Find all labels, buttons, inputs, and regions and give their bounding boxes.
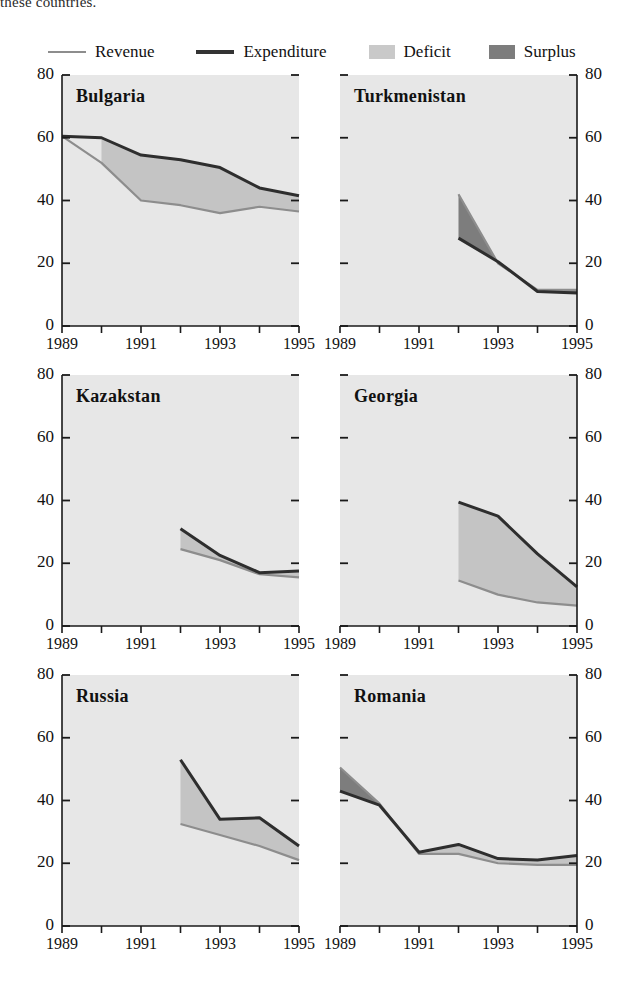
y-tick-label: 80 <box>12 664 54 684</box>
legend-label-revenue: Revenue <box>95 42 154 62</box>
x-tick-label: 1989 <box>32 335 92 353</box>
y-tick-label: 80 <box>585 364 625 384</box>
y-tick-label: 40 <box>585 190 625 210</box>
y-tick-label: 0 <box>12 315 54 335</box>
y-tick-label: 40 <box>12 190 54 210</box>
chart-legend: Revenue Expenditure Deficit Surplus <box>48 40 638 64</box>
y-tick-label: 60 <box>12 427 54 447</box>
y-tick-label: 40 <box>12 490 54 510</box>
x-tick-label: 1991 <box>111 335 171 353</box>
x-tick-label: 1995 <box>547 335 607 353</box>
y-tick-label: 20 <box>585 852 625 872</box>
y-tick-label: 80 <box>12 364 54 384</box>
x-tick-label: 1991 <box>389 635 449 653</box>
legend-item-revenue: Revenue <box>48 42 154 62</box>
x-tick-label: 1989 <box>32 635 92 653</box>
y-tick-label: 60 <box>585 427 625 447</box>
y-tick-label: 40 <box>585 490 625 510</box>
x-tick-label: 1995 <box>547 635 607 653</box>
legend-item-surplus: Surplus <box>489 42 576 62</box>
x-tick-label: 1989 <box>310 635 370 653</box>
x-tick-label: 1995 <box>547 935 607 953</box>
caption-text: these countries. <box>0 0 638 16</box>
x-tick-label: 1991 <box>111 635 171 653</box>
y-tick-label: 0 <box>585 315 625 335</box>
chart-panel-georgia: Georgia0204060801989199119931995 <box>319 366 638 666</box>
x-tick-label: 1989 <box>310 335 370 353</box>
legend-item-deficit: Deficit <box>369 42 451 62</box>
x-tick-label: 1993 <box>190 335 250 353</box>
x-tick-label: 1991 <box>389 935 449 953</box>
y-tick-label: 60 <box>12 127 54 147</box>
x-tick-label: 1989 <box>310 935 370 953</box>
y-tick-label: 20 <box>12 852 54 872</box>
chart-panel-grid: Bulgaria0204060801989199119931995Turkmen… <box>0 66 638 996</box>
y-tick-label: 80 <box>12 64 54 84</box>
y-tick-label: 20 <box>12 252 54 272</box>
y-tick-label: 0 <box>12 915 54 935</box>
y-tick-label: 20 <box>12 552 54 572</box>
expenditure-line-icon <box>196 50 234 54</box>
y-tick-label: 60 <box>12 727 54 747</box>
legend-label-surplus: Surplus <box>524 42 576 62</box>
revenue-line-icon <box>48 51 86 53</box>
chart-panel-russia: Russia0204060801989199119931995 <box>0 666 319 966</box>
x-tick-label: 1993 <box>468 935 528 953</box>
chart-panel-kazakstan: Kazakstan0204060801989199119931995 <box>0 366 319 666</box>
y-tick-label: 0 <box>12 615 54 635</box>
y-tick-label: 40 <box>12 790 54 810</box>
y-tick-label: 80 <box>585 664 625 684</box>
y-tick-label: 80 <box>585 64 625 84</box>
chart-panel-turkmenistan: Turkmenistan0204060801989199119931995 <box>319 66 638 366</box>
x-tick-label: 1993 <box>468 635 528 653</box>
x-tick-label: 1991 <box>111 935 171 953</box>
surplus-swatch-icon <box>489 45 515 59</box>
x-tick-label: 1993 <box>468 335 528 353</box>
y-tick-label: 40 <box>585 790 625 810</box>
y-tick-label: 60 <box>585 727 625 747</box>
x-tick-label: 1993 <box>190 635 250 653</box>
deficit-swatch-icon <box>369 45 395 59</box>
legend-label-expenditure: Expenditure <box>243 42 326 62</box>
y-tick-label: 0 <box>585 915 625 935</box>
area-deficit <box>181 760 300 860</box>
y-tick-label: 20 <box>585 252 625 272</box>
legend-label-deficit: Deficit <box>404 42 451 62</box>
y-tick-label: 20 <box>585 552 625 572</box>
x-tick-label: 1991 <box>389 335 449 353</box>
legend-item-expenditure: Expenditure <box>196 42 326 62</box>
area-deficit <box>459 502 578 606</box>
y-tick-label: 0 <box>585 615 625 635</box>
chart-panel-romania: Romania0204060801989199119931995 <box>319 666 638 966</box>
chart-panel-bulgaria: Bulgaria0204060801989199119931995 <box>0 66 319 366</box>
area-deficit <box>102 138 300 213</box>
x-tick-label: 1993 <box>190 935 250 953</box>
x-tick-label: 1989 <box>32 935 92 953</box>
y-tick-label: 60 <box>585 127 625 147</box>
